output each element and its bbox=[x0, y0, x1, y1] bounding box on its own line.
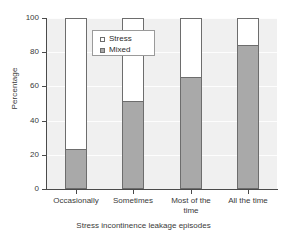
bar-segment-mixed bbox=[237, 45, 259, 189]
bar-segment-stress bbox=[65, 18, 87, 150]
legend-label-mixed: Mixed bbox=[109, 46, 130, 54]
legend-item-mixed: Mixed bbox=[100, 45, 154, 55]
bar-segment-stress bbox=[180, 18, 202, 78]
stacked-bar bbox=[65, 18, 87, 189]
y-axis-line bbox=[46, 18, 47, 190]
bar-segment-mixed bbox=[122, 101, 144, 189]
y-tick-label: 40 bbox=[0, 117, 39, 125]
y-tick-label: 0 bbox=[0, 185, 39, 193]
x-tick-mark bbox=[191, 190, 192, 194]
legend-item-stress: Stress bbox=[100, 34, 154, 44]
stacked-bar bbox=[180, 18, 202, 189]
bar-segment-stress bbox=[237, 18, 259, 46]
stacked-bar bbox=[237, 18, 259, 189]
x-tick-mark bbox=[248, 190, 249, 194]
y-tick-mark bbox=[42, 121, 46, 122]
y-tick-label: 60 bbox=[0, 82, 39, 90]
bar-segment-mixed bbox=[180, 77, 202, 189]
y-tick-mark bbox=[42, 52, 46, 53]
chart-legend: Stress Mixed bbox=[92, 30, 155, 56]
y-tick-mark bbox=[42, 189, 46, 190]
y-tick-label: 100 bbox=[0, 14, 39, 22]
y-tick-mark bbox=[42, 18, 46, 19]
x-tick-mark bbox=[133, 190, 134, 194]
x-tick-label: All the time bbox=[212, 196, 284, 206]
y-tick-mark bbox=[42, 86, 46, 87]
x-tick-mark bbox=[76, 190, 77, 194]
x-axis-line bbox=[46, 189, 278, 190]
y-tick-mark bbox=[42, 155, 46, 156]
bar-segment-mixed bbox=[65, 149, 87, 189]
white-square-swatch-icon bbox=[100, 37, 105, 42]
y-tick-label: 80 bbox=[0, 48, 39, 56]
stacked-bar-chart-figure: Percentage 020406080100 OccasionallySome… bbox=[0, 0, 287, 238]
legend-label-stress: Stress bbox=[109, 35, 132, 43]
y-tick-label: 20 bbox=[0, 151, 39, 159]
x-axis-title: Stress incontinence leakage episodes bbox=[0, 221, 287, 230]
gray-square-swatch-icon bbox=[100, 48, 105, 53]
